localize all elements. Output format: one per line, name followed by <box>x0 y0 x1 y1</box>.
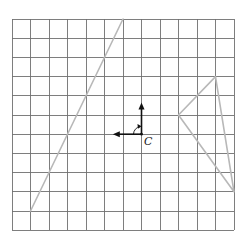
square-grid <box>12 19 234 230</box>
center-of-rotation: C <box>113 103 153 149</box>
rotation-diagram: C <box>0 0 247 240</box>
arrowhead-up-icon <box>139 103 145 110</box>
point-label-c: C <box>144 135 153 148</box>
arrowhead-left-icon <box>113 131 120 137</box>
center-point <box>140 133 143 136</box>
